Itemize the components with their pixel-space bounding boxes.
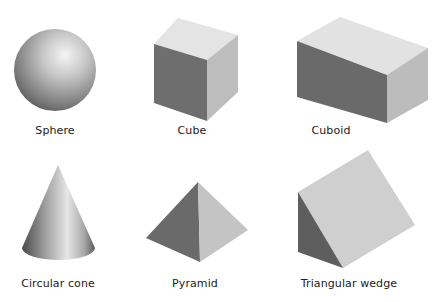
cuboid-shape bbox=[297, 17, 428, 123]
circular-cone-label: Circular cone bbox=[21, 277, 95, 290]
pyramid-shape bbox=[146, 182, 248, 262]
triangular-wedge-shape bbox=[298, 150, 415, 268]
cube-shape bbox=[154, 18, 238, 121]
cube-label: Cube bbox=[178, 124, 207, 137]
solid-shapes-figure: Sphere Cube Cuboid Circular cone Pyramid… bbox=[0, 0, 441, 302]
shapes-drawing bbox=[0, 0, 441, 302]
sphere-label: Sphere bbox=[35, 124, 74, 137]
triangular-wedge-label: Triangular wedge bbox=[301, 277, 397, 290]
sphere-shape bbox=[14, 29, 96, 111]
cuboid-label: Cuboid bbox=[311, 124, 350, 137]
pyramid-label: Pyramid bbox=[172, 277, 218, 290]
circular-cone-shape bbox=[22, 165, 95, 260]
